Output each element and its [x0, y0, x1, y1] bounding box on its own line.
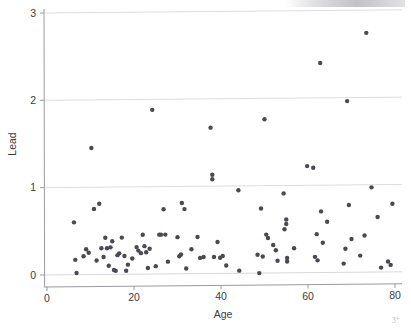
data-point [255, 253, 259, 257]
data-point [74, 271, 78, 275]
axis-lines-group [44, 9, 402, 287]
data-point [103, 236, 107, 240]
data-point [161, 207, 165, 211]
data-point [257, 271, 261, 275]
data-point [201, 255, 205, 259]
data-point [358, 253, 362, 257]
data-point [292, 246, 296, 250]
data-point [184, 266, 188, 270]
y-tick-label: 0 [30, 269, 36, 281]
data-point [120, 235, 124, 239]
y-tick-label: 1 [30, 181, 36, 193]
data-point [210, 173, 214, 177]
data-point [189, 247, 193, 251]
data-point [108, 245, 112, 249]
data-point [182, 207, 186, 211]
data-point [281, 191, 285, 195]
x-tick-label: 0 [44, 292, 50, 304]
scatter-plot-figure: 0123020406080 Age Lead ʒ+ [0, 0, 411, 328]
data-point [285, 259, 289, 263]
data-points-group [72, 31, 395, 276]
data-point [313, 255, 317, 259]
data-point [259, 206, 263, 210]
data-point [318, 61, 322, 65]
x-tick-label: 60 [302, 290, 314, 302]
data-point [84, 247, 88, 251]
data-point [261, 254, 265, 258]
data-point [237, 268, 241, 272]
data-point [274, 248, 278, 252]
data-point [154, 264, 158, 268]
data-point [114, 269, 118, 273]
data-point [180, 201, 184, 205]
data-point [159, 232, 163, 236]
data-point [215, 240, 219, 244]
data-point [388, 263, 392, 267]
data-point [262, 117, 266, 121]
data-point [179, 252, 183, 256]
data-point [142, 244, 146, 248]
tick-labels-group: 0123020406080 [30, 7, 401, 304]
gridline-y [44, 272, 402, 275]
data-point [146, 266, 150, 270]
data-point [212, 255, 216, 259]
data-point [99, 246, 103, 250]
data-point [166, 259, 170, 263]
data-point [89, 146, 93, 150]
data-point [175, 235, 179, 239]
data-point [341, 261, 345, 265]
data-point [311, 166, 315, 170]
data-point [362, 233, 366, 237]
data-point [210, 177, 214, 181]
data-point [195, 235, 199, 239]
data-point [390, 202, 394, 206]
data-point [117, 251, 121, 255]
data-point [349, 237, 353, 241]
data-point [271, 243, 275, 247]
y-axis-line [44, 9, 45, 287]
scan-artifact-corner: ʒ+ [392, 315, 399, 322]
data-point [110, 239, 114, 243]
data-point [144, 250, 148, 254]
data-point [321, 241, 325, 245]
x-tick-label: 40 [215, 290, 227, 302]
data-point [92, 207, 96, 211]
data-point [130, 256, 134, 260]
data-point [347, 203, 351, 207]
data-point [282, 227, 286, 231]
data-point [97, 202, 101, 206]
gridlines-group [44, 10, 402, 275]
data-point [284, 217, 288, 221]
data-point [139, 251, 143, 255]
data-point [379, 265, 383, 269]
y-tick-label: 2 [30, 94, 36, 106]
data-point [126, 262, 130, 266]
data-point [73, 258, 77, 262]
data-point [315, 232, 319, 236]
data-point [87, 251, 91, 255]
data-point [325, 220, 329, 224]
data-point [208, 125, 212, 129]
data-point [364, 31, 368, 35]
gridline-y [44, 10, 402, 13]
data-point [72, 220, 76, 224]
data-point [150, 108, 154, 112]
data-point [94, 258, 98, 262]
data-point [369, 185, 373, 189]
y-tick-label: 3 [30, 7, 36, 19]
data-point [141, 233, 145, 237]
scatter-plot-canvas: 0123020406080 Age Lead [0, 0, 411, 328]
data-point [147, 247, 151, 251]
data-point [163, 232, 167, 236]
data-point [266, 236, 270, 240]
gridline-y [44, 184, 402, 187]
data-point [107, 263, 111, 267]
x-tick-label: 80 [389, 289, 401, 301]
data-point [224, 263, 228, 267]
data-point [284, 222, 288, 226]
x-axis-title: Age [214, 308, 233, 320]
data-point [343, 247, 347, 251]
data-point [122, 254, 126, 258]
data-point [345, 99, 349, 103]
data-point [101, 255, 105, 259]
